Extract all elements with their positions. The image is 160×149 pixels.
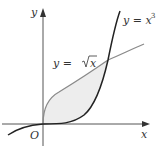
origin-label: O: [30, 129, 39, 142]
cube-label: y = x: [122, 14, 152, 27]
graph-canvas: y x O y = x y = x 3: [0, 0, 160, 149]
cube-exponent: 3: [151, 12, 155, 20]
x-axis-arrow-icon: [142, 121, 150, 127]
x-axis-label: x: [141, 128, 148, 141]
sqrt-label: y =: [52, 57, 72, 70]
y-axis-arrow-icon: [40, 8, 46, 17]
y-axis-label: y: [30, 6, 38, 19]
sqrt-arg: x: [90, 57, 97, 70]
